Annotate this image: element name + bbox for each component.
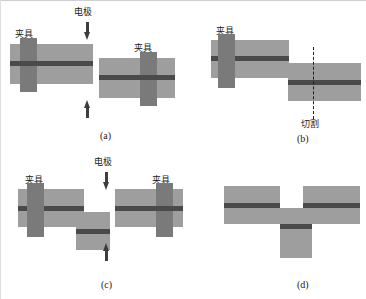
panel-caption-a: (a) — [100, 130, 111, 142]
electrode-arrow-up-a — [84, 100, 91, 118]
figure-welding-process-diagram: 电极 夹具 夹具 (a) 夹具 切割 — [0, 0, 366, 299]
electrode-arrow-down-c — [103, 172, 110, 190]
arrow-shaft — [86, 107, 89, 118]
panel-caption-d: (d) — [297, 279, 309, 291]
seam-c-right — [115, 206, 183, 211]
seam-a-left — [10, 61, 93, 66]
cut-line-b — [313, 47, 314, 119]
arrow-shaft — [105, 250, 108, 261]
clamp-c-left — [27, 183, 44, 237]
cut-label-b: 切割 — [301, 119, 319, 130]
arrow-head — [84, 100, 90, 108]
electrode-label-c-top: 电极 — [94, 157, 112, 168]
arrow-head — [103, 243, 109, 251]
arrow-head — [84, 32, 90, 40]
clamp-b — [218, 34, 235, 88]
panel-caption-b: (b) — [297, 133, 309, 145]
electrode-label-a-top: 电极 — [74, 7, 92, 18]
seam-d-stub — [280, 224, 312, 229]
plate-d-bridge — [280, 208, 303, 224]
electrode-arrow-up-c — [103, 243, 110, 261]
scan-edge-top — [0, 0, 366, 1]
seam-c-left-step — [76, 229, 110, 234]
seam-d-left-arm — [224, 203, 280, 208]
seam-d-right-arm — [303, 203, 360, 208]
scan-edge-left — [0, 0, 1, 299]
electrode-arrow-down-a — [84, 22, 91, 40]
arrow-head — [103, 182, 109, 190]
seam-b-lower — [288, 80, 361, 85]
plate-d-stub — [280, 224, 312, 258]
panel-caption-c: (c) — [101, 279, 112, 291]
seam-a-right — [99, 75, 175, 80]
